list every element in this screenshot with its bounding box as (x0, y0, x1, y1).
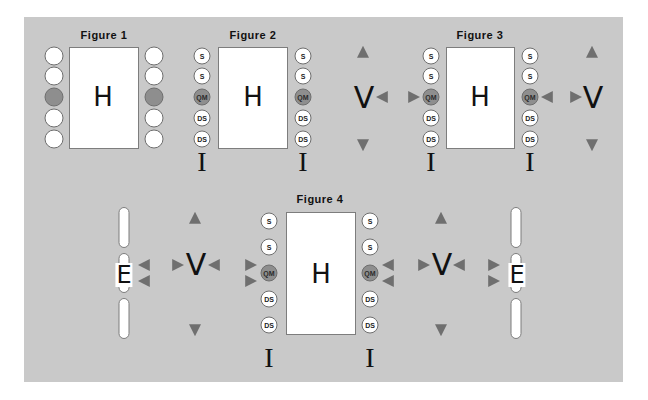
left-circle-highlighted (45, 88, 64, 107)
ds-circle: DS (194, 131, 211, 148)
s-circle: S (261, 239, 278, 256)
h-label: H (469, 84, 491, 110)
v-label: V (583, 83, 604, 113)
qm-circle: QM (194, 89, 211, 106)
ds-circle: DS (423, 131, 440, 148)
s-circle: S (362, 239, 379, 256)
s-circle: S (194, 68, 211, 85)
qm-circle: QM (261, 265, 278, 282)
qm-circle: QM (295, 89, 312, 106)
i-mark: I (298, 148, 307, 176)
left-circle (45, 47, 64, 66)
i-mark: I (264, 344, 273, 372)
i-mark: I (525, 148, 534, 176)
h-label: H (92, 84, 114, 110)
qm-circle: QM (362, 265, 379, 282)
e-label: E (115, 263, 132, 287)
e-bar-segment (511, 298, 522, 339)
figure-title: Figure 2 (230, 29, 277, 41)
qm-circle: QM (522, 89, 539, 106)
right-circle (145, 47, 164, 66)
e-label: E (508, 263, 525, 287)
i-mark: I (426, 148, 435, 176)
ds-circle: DS (295, 131, 312, 148)
right-circle (145, 109, 164, 128)
v-label: V (432, 250, 453, 280)
right-circle (145, 130, 164, 149)
left-circle (45, 130, 64, 149)
v-label: V (186, 250, 207, 280)
ds-circle: DS (194, 110, 211, 127)
h-label: H (242, 84, 264, 110)
s-circle: S (261, 213, 278, 230)
v-label: V (354, 83, 375, 113)
qm-circle: QM (423, 89, 440, 106)
h-label: H (310, 261, 332, 287)
left-circle (45, 109, 64, 128)
e-bar-segment (119, 207, 130, 248)
figure-title: Figure 4 (297, 193, 344, 205)
s-circle: S (423, 48, 440, 65)
s-circle: S (522, 68, 539, 85)
s-circle: S (423, 68, 440, 85)
i-mark: I (365, 344, 374, 372)
s-circle: S (295, 48, 312, 65)
s-circle: S (522, 48, 539, 65)
e-bar-segment (119, 298, 130, 339)
left-circle (45, 67, 64, 86)
ds-circle: DS (261, 317, 278, 334)
right-circle (145, 67, 164, 86)
ds-circle: DS (522, 110, 539, 127)
s-circle: S (194, 48, 211, 65)
ds-circle: DS (295, 110, 312, 127)
ds-circle: DS (423, 110, 440, 127)
i-mark: I (197, 148, 206, 176)
ds-circle: DS (522, 131, 539, 148)
ds-circle: DS (261, 291, 278, 308)
s-circle: S (295, 68, 312, 85)
figure-title: Figure 3 (457, 29, 504, 41)
s-circle: S (362, 213, 379, 230)
right-circle-highlighted (145, 88, 164, 107)
e-bar-segment (511, 207, 522, 248)
ds-circle: DS (362, 317, 379, 334)
ds-circle: DS (362, 291, 379, 308)
figure-title: Figure 1 (81, 29, 128, 41)
